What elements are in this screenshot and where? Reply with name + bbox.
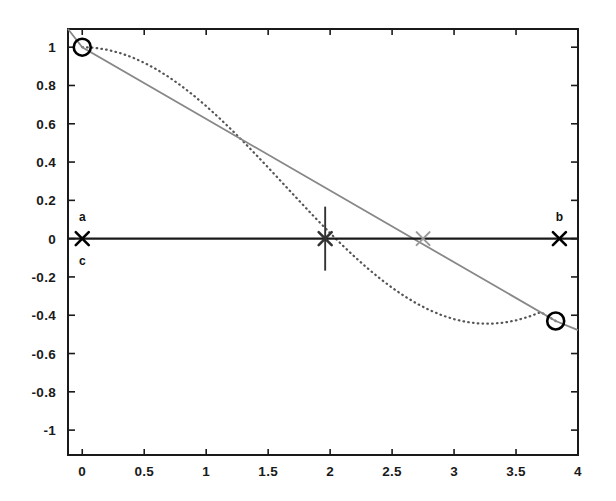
x-tick-label-6: 3: [450, 464, 458, 479]
y-tick-label-0: 1: [0, 40, 56, 55]
series-secant: [68, 29, 578, 330]
label-a: a: [79, 210, 86, 224]
y-tick-label-4: 0.2: [0, 193, 56, 208]
x-tick-label-4: 2: [326, 464, 334, 479]
x-tick-label-3: 1.5: [258, 464, 278, 479]
label-b: b: [556, 210, 563, 224]
y-tick-label-10: -1: [0, 423, 56, 438]
chart-canvas: [0, 0, 616, 501]
y-tick-label-3: 0.4: [0, 155, 56, 170]
y-tick-label-7: -0.4: [0, 308, 56, 323]
x-tick-label-5: 2.5: [382, 464, 402, 479]
y-tick-label-5: 0: [0, 231, 56, 246]
x-tick-label-0: 0: [78, 464, 86, 479]
y-tick-label-8: -0.6: [0, 346, 56, 361]
x-tick-label-8: 4: [574, 464, 582, 479]
x-tick-label-2: 1: [202, 464, 210, 479]
y-tick-label-2: 0.6: [0, 116, 56, 131]
chart-figure: 00.511.522.533.5410.80.60.40.20-0.2-0.4-…: [0, 0, 616, 501]
y-tick-label-1: 0.8: [0, 78, 56, 93]
x-tick-label-1: 0.5: [134, 464, 154, 479]
x-tick-label-7: 3.5: [506, 464, 526, 479]
y-tick-label-6: -0.2: [0, 269, 56, 284]
label-c: c: [79, 254, 86, 268]
y-tick-label-9: -0.8: [0, 384, 56, 399]
